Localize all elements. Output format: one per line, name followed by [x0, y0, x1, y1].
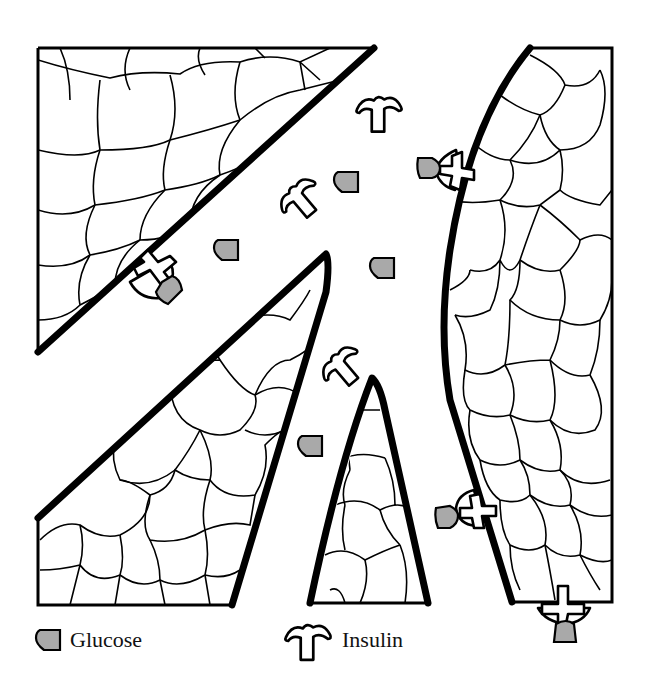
- tissue-diagram: [0, 0, 648, 693]
- glucose-icon: [334, 172, 358, 192]
- legend-glucose: Glucose: [64, 622, 142, 658]
- insulin-icon: [316, 342, 371, 395]
- receptor-bottom-right: [538, 586, 590, 642]
- insulin-icon: [274, 174, 329, 227]
- legend-insulin: Insulin: [336, 622, 403, 658]
- glucose-icon: [435, 506, 458, 528]
- glucose-icon: [298, 436, 322, 456]
- insulin-icon: [357, 97, 402, 132]
- glucose-icon: [214, 240, 238, 260]
- legend-glucose-icon: [36, 630, 60, 650]
- legend-glucose-label: Glucose: [70, 627, 142, 653]
- glucose-icon: [417, 158, 440, 178]
- legend-insulin-label: Insulin: [342, 627, 403, 653]
- glucose-icon: [370, 258, 394, 278]
- tissue-center-spike: [310, 378, 428, 603]
- glucose-icon: [554, 621, 576, 642]
- tissue-middle-left: [38, 254, 328, 605]
- legend-insulin-icon: [285, 625, 330, 660]
